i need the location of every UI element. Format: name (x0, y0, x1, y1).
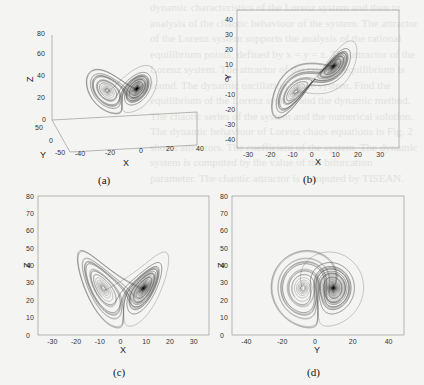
x-tick-label: 0 (313, 338, 317, 345)
y-tick-label: -10 (225, 91, 235, 98)
panel-a-y-ticks: 50 0 -50 Y (35, 124, 65, 160)
panel-a-axes (52, 35, 197, 152)
panel-b-caption: (b) (303, 173, 316, 186)
svg-text:0: 0 (42, 116, 46, 123)
y-tick-label: -40 (225, 136, 235, 143)
y-tick-label: 60 (26, 227, 34, 234)
x-tick-label: 20 (166, 338, 174, 345)
svg-text:40: 40 (196, 145, 204, 152)
svg-text:50: 50 (35, 124, 43, 131)
y-tick-label: 10 (220, 314, 228, 321)
panel-a-ylabel: Y (40, 150, 46, 160)
lorenz-figure: 80 60 40 20 0 Z 50 0 -50 Y -40 -20 0 20 … (0, 0, 424, 385)
y-tick-label: 20 (225, 46, 233, 53)
panel-d-caption: (d) (307, 366, 320, 379)
svg-text:0: 0 (139, 147, 143, 154)
panel-c-xlabel: X (120, 345, 126, 355)
y-tick-label: 80 (220, 193, 228, 200)
svg-text:20: 20 (37, 94, 45, 101)
svg-text:-20: -20 (105, 149, 115, 156)
panel-c-caption: (c) (113, 366, 126, 379)
x-tick-label: 40 (385, 338, 393, 345)
x-tick-label: -10 (95, 338, 105, 345)
x-tick-label: -20 (277, 338, 287, 345)
x-tick-label: 30 (376, 151, 384, 158)
panel-a-zlabel: Z (25, 76, 35, 82)
y-tick-label: 10 (26, 314, 34, 321)
panel-d-xlabel: Y (314, 345, 320, 355)
panel-a-x-ticks: -40 -20 0 20 40 X (75, 145, 204, 168)
panel-c: -30-20-10010203080706050403020100 Z X (c… (22, 193, 209, 380)
panel-b-xlabel: X (315, 157, 321, 167)
y-tick-label: 20 (26, 297, 34, 304)
x-tick-label: -20 (265, 151, 275, 158)
x-tick-label: 0 (310, 151, 314, 158)
panel-c-ylabel: Z (22, 262, 32, 268)
panel-d-ticks: -40-200204080706050403020100 (220, 193, 393, 346)
panel-c-trajectory (77, 250, 168, 328)
panel-d-trajectory (271, 250, 364, 328)
panel-d-ylabel: Z (216, 262, 226, 268)
panel-b: -30-20-100102030403020100-10-20-30-40 Y … (223, 10, 399, 186)
y-tick-label: 10 (225, 61, 233, 68)
panel-b-trajectory (272, 41, 357, 119)
y-tick-label: 0 (26, 332, 30, 339)
y-tick-label: 30 (26, 279, 34, 286)
x-tick-label: 20 (349, 338, 357, 345)
y-tick-label: -30 (225, 121, 235, 128)
svg-text:0: 0 (49, 137, 53, 144)
panel-a-z-ticks: 80 60 40 20 0 Z (25, 30, 46, 123)
x-tick-label: 20 (354, 151, 362, 158)
x-tick-label: -10 (287, 151, 297, 158)
x-tick-label: 30 (190, 338, 198, 345)
x-tick-label: -20 (71, 338, 81, 345)
svg-text:-40: -40 (75, 150, 85, 157)
y-tick-label: 40 (225, 16, 233, 23)
svg-text:80: 80 (37, 30, 45, 37)
svg-text:20: 20 (166, 145, 174, 152)
x-tick-label: -30 (243, 151, 253, 158)
panel-b-ylabel: Y (223, 74, 233, 80)
x-tick-label: 10 (332, 151, 340, 158)
svg-text:40: 40 (37, 72, 45, 79)
panel-c-ticks: -30-20-10010203080706050403020100 (26, 193, 198, 346)
y-tick-label: 70 (220, 210, 228, 217)
panel-a-caption: (a) (98, 174, 111, 187)
svg-text:-50: -50 (55, 149, 65, 156)
x-tick-label: -30 (47, 338, 57, 345)
y-tick-label: 80 (26, 193, 34, 200)
panel-b-frame (237, 10, 399, 148)
panel-d: -40-200204080706050403020100 Z Y (d) (216, 193, 404, 380)
y-tick-label: 0 (220, 332, 224, 339)
y-tick-label: 30 (225, 31, 233, 38)
x-tick-label: 0 (119, 338, 123, 345)
y-tick-label: 30 (220, 279, 228, 286)
x-tick-label: -40 (241, 338, 251, 345)
y-tick-label: 50 (26, 245, 34, 252)
y-tick-label: 20 (220, 297, 228, 304)
panel-a-xlabel: X (123, 158, 129, 168)
y-tick-label: -20 (225, 106, 235, 113)
y-tick-label: 70 (26, 210, 34, 217)
panel-a-trajectory (86, 66, 157, 114)
y-tick-label: 50 (220, 245, 228, 252)
x-tick-label: 10 (142, 338, 150, 345)
y-tick-label: 60 (220, 227, 228, 234)
svg-text:60: 60 (37, 50, 45, 57)
panel-a: 80 60 40 20 0 Z 50 0 -50 Y -40 -20 0 20 … (25, 30, 204, 187)
